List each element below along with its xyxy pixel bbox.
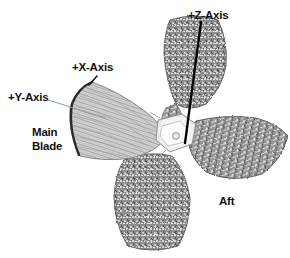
label-z-axis: +Z-Axis [188, 9, 228, 21]
label-aft: Aft [219, 195, 234, 207]
label-y-axis: +Y-Axis [8, 91, 48, 103]
label-main-blade-line1: Main [32, 126, 57, 138]
blade-bottom [114, 154, 190, 250]
blade-main-left [70, 82, 166, 160]
blade-right [188, 117, 288, 179]
label-main-blade-line2: Blade [32, 140, 62, 152]
label-x-axis: +X-Axis [72, 61, 113, 73]
propeller-figure: +Y-Axis +X-Axis +Z-Axis Aft Main Blade [0, 0, 290, 258]
